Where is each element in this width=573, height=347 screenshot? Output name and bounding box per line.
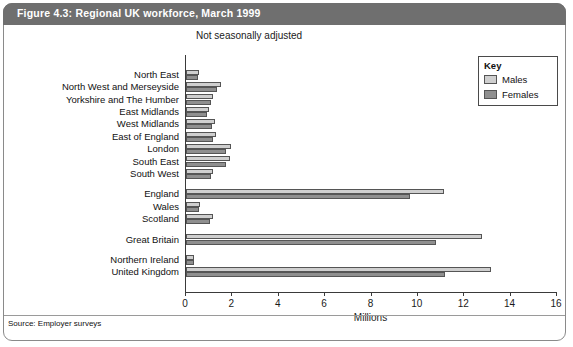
bar-females — [186, 219, 210, 224]
bar-females — [186, 137, 213, 142]
x-axis-tick — [278, 292, 279, 296]
bar-females — [186, 87, 217, 92]
figure-title-bar: Figure 4.3: Regional UK workforce, March… — [3, 3, 566, 25]
figure-title: Figure 4.3: Regional UK workforce, March… — [17, 7, 261, 19]
females-swatch — [484, 90, 497, 99]
x-axis-tick — [324, 292, 325, 296]
legend-title: Key — [484, 60, 501, 71]
x-axis-tick-label: 14 — [504, 298, 515, 309]
category-label: Yorkshire and The Humber — [66, 94, 179, 105]
category-label: London — [147, 143, 179, 154]
x-axis-tick-label: 4 — [275, 298, 281, 309]
legend-item-label: Males — [502, 74, 527, 85]
bar-females — [186, 240, 436, 245]
legend-key-box: Key MalesFemales — [478, 56, 558, 106]
category-label: South East — [133, 156, 179, 167]
legend-item-label: Females — [502, 89, 538, 100]
category-label: England — [144, 188, 179, 199]
males-swatch — [484, 75, 497, 84]
figure-source: Source: Employer surveys — [8, 319, 101, 328]
category-label: United Kingdom — [111, 266, 179, 277]
bar-females — [186, 149, 226, 154]
category-label: East Midlands — [119, 106, 179, 117]
bar-females — [186, 207, 199, 212]
category-label: Great Britain — [126, 234, 179, 245]
bar-females — [186, 174, 211, 179]
bar-females — [186, 112, 207, 117]
bar-females — [186, 162, 226, 167]
x-axis-tick-label: 10 — [411, 298, 422, 309]
x-axis-tick-label: 12 — [458, 298, 469, 309]
x-axis-tick-label: 16 — [550, 298, 561, 309]
category-label: North West and Merseyside — [62, 81, 179, 92]
category-label: North East — [134, 69, 179, 80]
bar-females — [186, 124, 212, 129]
x-axis-tick-label: 8 — [368, 298, 374, 309]
bar-females — [186, 100, 211, 105]
x-axis-tick — [185, 292, 186, 296]
x-axis-tick-label: 6 — [321, 298, 327, 309]
category-label: South West — [130, 168, 179, 179]
bar-females — [186, 194, 410, 199]
category-label: West Midlands — [117, 118, 179, 129]
x-axis-tick — [556, 292, 557, 296]
bar-females — [186, 272, 445, 277]
x-axis-tick-label: 0 — [182, 298, 188, 309]
figure-container: Figure 4.3: Regional UK workforce, March… — [0, 0, 573, 347]
x-axis-tick — [417, 292, 418, 296]
category-label: Scotland — [142, 213, 179, 224]
x-axis-tick — [231, 292, 232, 296]
category-label: East of England — [112, 131, 179, 142]
x-axis-tick — [371, 292, 372, 296]
bar-females — [186, 260, 194, 265]
bar-females — [186, 75, 198, 80]
x-axis-tick — [510, 292, 511, 296]
figure-subtitle: Not seasonally adjusted — [196, 30, 302, 41]
x-axis-tick — [463, 292, 464, 296]
category-label: Wales — [153, 201, 179, 212]
footer-divider — [4, 315, 565, 316]
category-labels: North EastNorth West and MerseysideYorks… — [0, 55, 182, 292]
x-axis-tick-label: 2 — [229, 298, 235, 309]
x-axis-title: Millions — [185, 312, 556, 323]
category-label: Northern Ireland — [110, 254, 179, 265]
